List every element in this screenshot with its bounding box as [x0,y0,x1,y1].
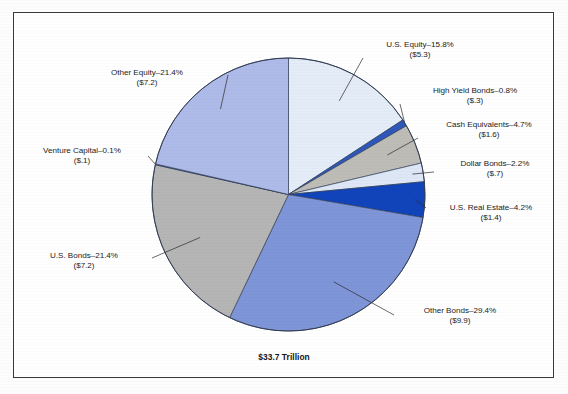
figure-canvas: Other Equity–21.4% ($7.2) Venture Capita… [0,0,568,394]
callout-other-equity: Other Equity–21.4% ($7.2) [63,68,231,89]
chart-total-label: $33.7 Trillion [0,352,568,362]
callout-us-bonds-line1: U.S. Bonds–21.4% [14,251,154,261]
callout-us-real-estate-line2: ($1.4) [420,213,562,223]
callout-other-equity-line2: ($7.2) [63,78,231,88]
callout-cash-equivalents: Cash Equivalents–4.7% ($1.6) [414,120,564,141]
callout-us-real-estate-line1: U.S. Real Estate–4.2% [420,203,562,213]
callout-dollar-bonds-line2: ($.7) [430,169,560,179]
callout-dollar-bonds-line1: Dollar Bonds–2.2% [430,159,560,169]
callout-dollar-bonds: Dollar Bonds–2.2% ($.7) [430,159,560,180]
callout-us-bonds-line2: ($7.2) [14,261,154,271]
callout-other-bonds: Other Bonds–29.4% ($9.9) [390,306,530,327]
callout-us-equity-line1: U.S. Equity–15.8% [350,40,490,50]
callout-venture-capital-line1: Venture Capital–0.1% [12,146,152,156]
callout-high-yield-bonds-line2: ($.3) [400,96,550,106]
callout-us-equity: U.S. Equity–15.8% ($5.3) [350,40,490,61]
callout-us-equity-line2: ($5.3) [350,50,490,60]
callout-cash-equivalents-line2: ($1.6) [414,130,564,140]
pie-slice-group [152,58,425,331]
callout-venture-capital-line2: ($.1) [12,156,152,166]
callout-cash-equivalents-line1: Cash Equivalents–4.7% [414,120,564,130]
callout-venture-capital: Venture Capital–0.1% ($.1) [12,146,152,167]
callout-high-yield-bonds-line1: High Yield Bonds–0.8% [400,86,550,96]
callout-us-real-estate: U.S. Real Estate–4.2% ($1.4) [420,203,562,224]
callout-other-bonds-line1: Other Bonds–29.4% [390,306,530,316]
callout-other-equity-line1: Other Equity–21.4% [63,68,231,78]
callout-us-bonds: U.S. Bonds–21.4% ($7.2) [14,251,154,272]
callout-other-bonds-line2: ($9.9) [390,316,530,326]
callout-high-yield-bonds: High Yield Bonds–0.8% ($.3) [400,86,550,107]
